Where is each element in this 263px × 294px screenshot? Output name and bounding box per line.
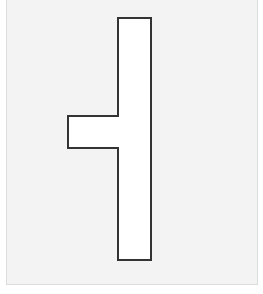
t-shape-outline [68, 18, 151, 260]
diagram-canvas [0, 0, 263, 294]
